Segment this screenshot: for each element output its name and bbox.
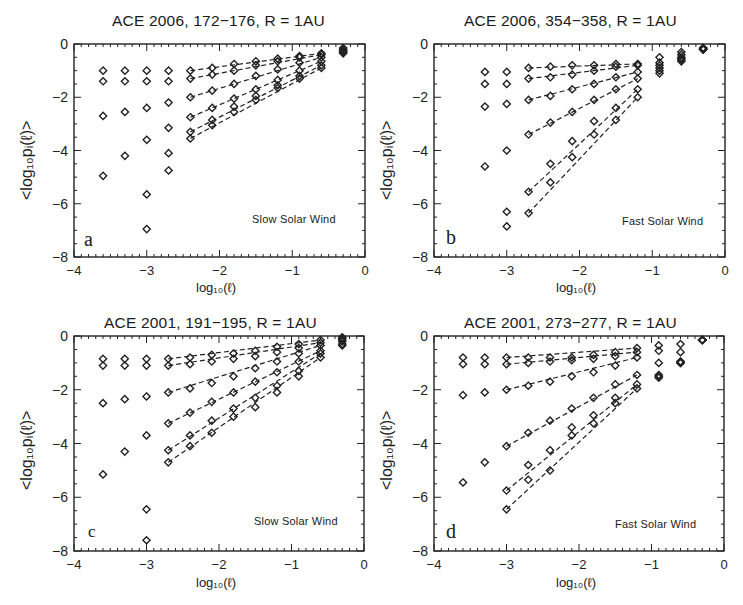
x-tick-label: −3 (499, 557, 514, 572)
data-point-diamond (525, 461, 532, 468)
y-tick-label: −4 (412, 436, 428, 452)
data-point-diamond (677, 340, 684, 347)
data-point-diamond (568, 424, 575, 431)
x-axis-label: log₁₀(ℓ) (556, 575, 596, 590)
x-tick-label: −1 (644, 557, 659, 572)
data-point-diamond (481, 389, 488, 396)
data-point-diamond (655, 359, 662, 366)
plot-area: −4−3−2−100−2−4−6−8 (0, 0, 743, 605)
fit-line (507, 384, 638, 490)
x-tick-label: −4 (427, 557, 442, 572)
x-tick-label: −2 (572, 557, 587, 572)
x-tick-label: 0 (720, 557, 727, 572)
y-tick-label: −8 (412, 543, 428, 559)
y-axis-label-b: <log₁₀pᵢ(ℓ)> (378, 121, 396, 200)
y-tick-label: −2 (412, 382, 428, 398)
data-point-diamond (459, 392, 466, 399)
data-point-diamond (481, 459, 488, 466)
fit-line (507, 388, 638, 509)
y-tick-label: −6 (412, 489, 428, 505)
data-point-diamond (525, 476, 532, 483)
panel-d: ACE 2001, 273−277, R = 1AU <log₁₀pᵢ(ℓ)> … (0, 0, 372, 300)
data-point-diamond (612, 362, 619, 369)
y-tick-label: 0 (420, 328, 428, 344)
data-point-diamond (459, 479, 466, 486)
data-point-diamond (677, 349, 684, 356)
data-point-diamond (590, 369, 597, 376)
annotation-label: Fast Solar Wind (615, 518, 696, 530)
panel-letter: d (446, 520, 456, 543)
data-point-diamond (546, 467, 553, 474)
